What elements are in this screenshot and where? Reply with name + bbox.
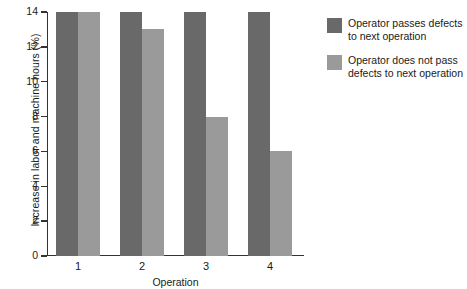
y-tick-label-text: 2 [4, 215, 38, 226]
bar [184, 12, 206, 256]
y-tick-label: 12 [0, 41, 38, 53]
legend-swatch [327, 55, 342, 70]
x-tick-label: 1 [58, 260, 98, 272]
y-tick-mark [41, 81, 47, 82]
y-tick-label: 2 [0, 215, 38, 227]
y-tick-label: 6 [0, 145, 38, 157]
bar-group [184, 12, 228, 256]
y-tick-label-text: 12 [4, 41, 38, 52]
x-tick-label: 4 [250, 260, 290, 272]
legend-item: Operator passes defectsto next operation [327, 17, 463, 43]
y-tick-mark [41, 11, 47, 12]
y-tick-label-text: 14 [4, 6, 38, 17]
x-axis-title: Operation [47, 276, 304, 288]
y-tick-label-text: 0 [4, 250, 38, 261]
y-tick-mark [41, 220, 47, 221]
bar-chart: Increase in labor and machine hours (%) … [0, 0, 467, 289]
y-tick-label: 4 [0, 180, 38, 192]
y-tick-label-text: 8 [4, 111, 38, 122]
x-tick-label: 3 [186, 260, 226, 272]
y-tick-label: 10 [0, 76, 38, 88]
y-tick-label-text: 10 [4, 76, 38, 87]
legend-label: Operator does not passdefects to next op… [348, 54, 463, 79]
bar [56, 12, 78, 256]
bar-group [56, 12, 100, 256]
bar [78, 12, 100, 256]
bar [270, 151, 292, 256]
plot-area [48, 12, 304, 256]
legend-swatch [327, 18, 342, 33]
y-tick-mark [41, 186, 47, 187]
legend-label: Operator passes defectsto next operation [348, 17, 463, 42]
y-tick-label: 14 [0, 6, 38, 18]
bar [142, 29, 164, 256]
legend-label-line: to next operation [348, 30, 463, 43]
y-tick-mark [41, 116, 47, 117]
bar-group [248, 12, 292, 256]
y-tick-mark [41, 151, 47, 152]
bar [206, 117, 228, 256]
bar [120, 12, 142, 256]
y-tick-label-text: 6 [4, 145, 38, 156]
legend-label-line: defects to next operation [348, 67, 463, 80]
bar-group [120, 12, 164, 256]
bar [248, 12, 270, 256]
y-tick-label-text: 4 [4, 180, 38, 191]
x-tick-label: 2 [122, 260, 162, 272]
chart-legend: Operator passes defectsto next operation… [327, 17, 463, 91]
y-tick-mark [41, 46, 47, 47]
legend-label-line: Operator does not pass [348, 54, 463, 67]
y-tick-label: 8 [0, 111, 38, 123]
legend-item: Operator does not passdefects to next op… [327, 54, 463, 80]
y-tick-mark [41, 255, 47, 256]
y-tick-label: 0 [0, 250, 38, 262]
legend-label-line: Operator passes defects [348, 17, 463, 30]
